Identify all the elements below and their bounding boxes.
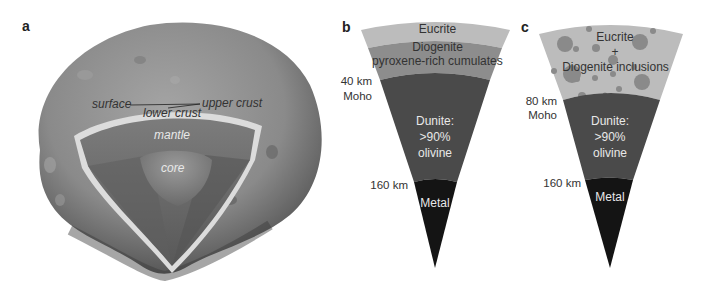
layer-eucrite: Eucrite [410,22,465,36]
panel-label-a: a [22,18,30,34]
layer-dunite-line2: >90% [405,130,465,144]
label-moho-c: Moho [515,108,557,122]
label-moho-b: Moho [332,89,372,103]
layer-dunite-line1: Dunite: [405,114,465,128]
panel-b-layer-model: b Eucrite Diogenite pyroxene-rich cumula… [330,0,515,290]
label-upper-crust: upper crust [202,96,262,110]
panel-label-b: b [342,19,351,35]
layer-dunite-line2-c: >90% [580,130,640,144]
layer-cumulates: pyroxene-rich cumulates [372,54,502,68]
layer-dunite-line3-c: olivine [580,146,640,160]
depth-core-c: 160 km [515,176,581,190]
layer-metal: Metal [410,196,460,210]
panel-c-layer-model: c Eucrite + Diogenite inclusions Dunite:… [515,0,702,290]
label-mantle: mantle [154,128,190,142]
vesta-cutaway-illustration [0,0,330,290]
panel-a-vesta-cutaway: a surface upper crust lower crust mantle… [0,0,330,290]
label-core: core [161,161,184,175]
layer-crust-line2: + [580,45,650,59]
layer-dunite-line3: olivine [405,146,465,160]
layer-dunite-line1-c: Dunite: [580,114,640,128]
label-lower-crust: lower crust [143,106,201,120]
layer-diogenite: Diogenite [405,40,470,54]
layer-crust-line1: Eucrite [580,30,650,44]
depth-moho-c: 80 km [515,94,557,108]
label-surface: surface [92,97,131,111]
panel-label-c: c [521,19,529,35]
depth-moho-b: 40 km [332,74,372,88]
depth-core-b: 160 km [330,178,408,192]
layer-crust-line3: Diogenite inclusions [553,60,678,74]
layer-metal-c: Metal [585,190,635,204]
